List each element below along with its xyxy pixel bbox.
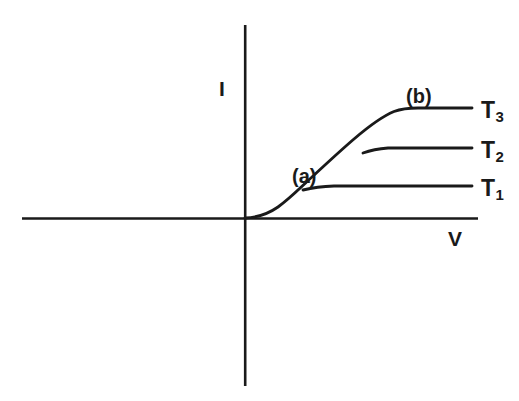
curve-t3-main: [245, 108, 472, 218]
figure-canvas: [0, 0, 519, 401]
series-label-t1-base: T: [481, 175, 495, 201]
curve-t1-plateau: [303, 186, 472, 190]
x-axis-label: V: [448, 228, 462, 249]
region-label-b: (b): [406, 86, 432, 106]
series-label-t2-subscript: 2: [496, 148, 504, 165]
y-axis-label: I: [219, 78, 225, 99]
curve-t2-plateau: [363, 148, 472, 153]
series-label-t1: T1: [481, 177, 503, 200]
series-label-t2-base: T: [481, 137, 495, 163]
region-label-a: (a): [292, 166, 316, 186]
series-label-t3-subscript: 3: [496, 108, 504, 125]
series-label-t3: T3: [481, 99, 503, 122]
iv-characteristic-figure: I V (a) (b) T3 T2 T1: [0, 0, 519, 401]
series-label-t3-base: T: [481, 97, 495, 123]
series-label-t2: T2: [481, 139, 503, 162]
series-label-t1-subscript: 1: [496, 186, 504, 203]
